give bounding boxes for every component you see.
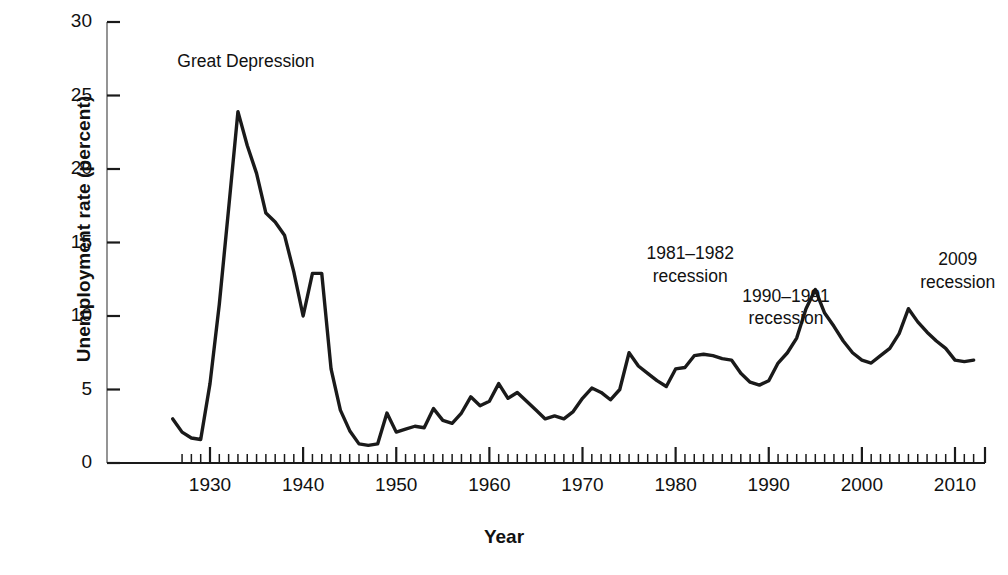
x-axis-tick-label: 1990 [724, 474, 814, 496]
x-axis-tick-label: 1940 [258, 474, 348, 496]
unemployment-rate-line [173, 112, 974, 446]
annotation-great-depression: Great Depression [141, 50, 351, 72]
y-axis-tick-label: 30 [50, 10, 92, 32]
x-axis-tick-label: 1960 [444, 474, 534, 496]
x-axis-tick-label: 1970 [538, 474, 628, 496]
x-axis-tick-label: 1950 [351, 474, 441, 496]
x-axis-tick-label: 2010 [910, 474, 1000, 496]
annotation-recession-2009: 2009 recession [893, 248, 1008, 293]
data-series-group [173, 112, 974, 446]
y-axis-ticks [107, 22, 120, 463]
y-axis-tick-label: 15 [50, 231, 92, 253]
annotation-recession-1990-1991: 1990–1991 recession [711, 285, 861, 330]
y-axis-tick-label: 25 [50, 84, 92, 106]
y-axis-title: Unemployment rate (percent) [73, 19, 95, 439]
unemployment-rate-chart: Unemployment rate (percent) Year 0510152… [0, 0, 1008, 575]
x-axis-ticks [182, 447, 985, 463]
y-axis-tick-label: 10 [50, 304, 92, 326]
annotation-recession-1981-1982: 1981–1982 recession [615, 242, 765, 287]
x-axis-title: Year [0, 526, 1008, 548]
x-axis-tick-label: 2000 [817, 474, 907, 496]
y-axis-tick-label: 5 [50, 378, 92, 400]
y-axis-tick-label: 0 [50, 451, 92, 473]
y-axis-tick-label: 20 [50, 157, 92, 179]
x-axis-tick-label: 1980 [631, 474, 721, 496]
axes [107, 22, 985, 463]
x-axis-tick-label: 1930 [165, 474, 255, 496]
